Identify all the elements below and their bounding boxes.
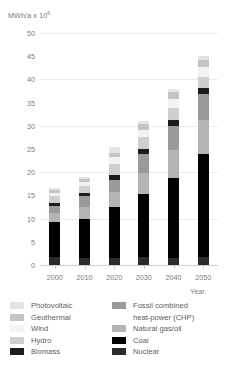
bar-segment-geothermal: [198, 60, 209, 67]
bar-segment-nuclear: [49, 257, 60, 265]
x-axis-tickmark: [85, 265, 86, 269]
bar-segment-fossil-combined-heat-power-chp: [79, 196, 90, 206]
bar-segment-geothermal: [109, 153, 120, 158]
bar-segment-geothermal: [138, 124, 149, 130]
y-axis-tick-label: 20: [27, 168, 35, 177]
bar-segment-fossil-combined-heat-power-chp: [168, 126, 179, 151]
bar-segment-fossil-combined-heat-power-chp: [198, 94, 209, 120]
y-axis-tick-label: 15: [27, 191, 35, 200]
x-axis-tickmark: [114, 265, 115, 269]
y-axis-label-text: MWh/a x 10: [8, 11, 47, 20]
legend-item: Coal: [112, 335, 194, 347]
bar-2030: [138, 121, 149, 265]
x-axis-tick-label: 2050: [195, 273, 211, 282]
bar-segment-geothermal: [168, 92, 179, 98]
bar-segment-wind: [109, 157, 120, 164]
bar-segment-fossil-combined-heat-power-chp: [109, 180, 120, 193]
bar-segment-photovoltaic: [138, 121, 149, 124]
bar-segment-photovoltaic: [49, 188, 60, 190]
bar-2050: [198, 56, 209, 265]
legend-label: Hydro: [31, 335, 51, 347]
y-axis-tick-label: 35: [27, 98, 35, 107]
bar-segment-coal: [109, 207, 120, 258]
bar-2020: [109, 147, 120, 265]
bar-segment-natural-gas-oil: [49, 213, 60, 223]
bar-segment-biomass: [198, 88, 209, 94]
legend-item: Biomass: [10, 346, 72, 358]
x-axis-tickmark: [55, 265, 56, 269]
x-axis-label: Year: [190, 287, 205, 296]
bar-segment-natural-gas-oil: [168, 150, 179, 178]
legend-item: Geothermal: [10, 312, 72, 324]
legend-column-right: Fossil combinedheat-power (CHP)Natural g…: [112, 300, 194, 358]
x-axis-tick-label: 2020: [106, 273, 122, 282]
bar-segment-natural-gas-oil: [79, 207, 90, 219]
legend-swatch: [10, 348, 24, 355]
legend-label: Nuclear: [133, 346, 159, 358]
bar-segment-hydro: [198, 77, 209, 88]
legend-item: Natural gas/oil: [112, 323, 194, 335]
legend-swatch: [112, 348, 126, 355]
x-axis-line: [40, 265, 218, 266]
legend-item: Nuclear: [112, 346, 194, 358]
bar-segment-wind: [79, 182, 90, 186]
bar-segment-wind: [198, 67, 209, 77]
bar-segment-wind: [49, 193, 60, 196]
bar-2000: [49, 188, 60, 265]
legend-swatch: [10, 302, 24, 309]
y-axis-tick-label: 30: [27, 121, 35, 130]
bar-segment-wind: [168, 99, 179, 108]
legend-label: heat-power (CHP): [133, 312, 194, 324]
bar-segment-biomass: [168, 120, 179, 126]
y-axis-label-exponent: 6: [47, 10, 50, 16]
gridline: [40, 79, 218, 80]
legend-item: Wind: [10, 323, 72, 335]
legend-swatch: [10, 314, 24, 321]
bar-segment-geothermal: [79, 179, 90, 182]
gridline: [40, 126, 218, 127]
bar-segment-photovoltaic: [79, 177, 90, 179]
legend: PhotovoltaicGeothermalWindHydroBiomass F…: [0, 300, 228, 368]
legend-swatch: [112, 325, 126, 332]
gridline: [40, 33, 218, 34]
y-axis-tick-label: 50: [27, 29, 35, 38]
gridline: [40, 219, 218, 220]
legend-label: Fossil combined: [133, 300, 188, 312]
x-axis-tick-label: 2030: [136, 273, 152, 282]
legend-item: Photovoltaic: [10, 300, 72, 312]
bar-segment-fossil-combined-heat-power-chp: [138, 154, 149, 173]
legend-swatch: [10, 325, 24, 332]
y-axis-tick-label: 5: [31, 237, 35, 246]
gridline: [40, 172, 218, 173]
legend-label: Biomass: [31, 346, 60, 358]
bar-segment-hydro: [138, 137, 149, 149]
bar-segment-nuclear: [79, 258, 90, 265]
legend-item: heat-power (CHP): [112, 312, 194, 324]
bar-segment-coal: [79, 219, 90, 258]
energy-scenario-stacked-bar-chart: MWh/a x 106 05101520253035404550 2000201…: [0, 0, 228, 368]
bar-segment-fossil-combined-heat-power-chp: [49, 206, 60, 212]
bar-segment-hydro: [168, 108, 179, 120]
bar-segment-coal: [49, 222, 60, 256]
y-axis-tick-label: 25: [27, 145, 35, 154]
legend-swatch: [112, 337, 126, 344]
x-axis-tickmark: [144, 265, 145, 269]
y-axis-label: MWh/a x 106: [8, 10, 50, 20]
legend-column-left: PhotovoltaicGeothermalWindHydroBiomass: [10, 300, 72, 358]
y-axis-tick-label: 10: [27, 214, 35, 223]
bar-segment-coal: [138, 194, 149, 257]
bar-segment-nuclear: [168, 258, 179, 265]
bar-segment-photovoltaic: [168, 89, 179, 93]
bar-segment-hydro: [49, 196, 60, 203]
legend-item: Hydro: [10, 335, 72, 347]
x-axis-tickmark: [203, 265, 204, 269]
bar-segment-nuclear: [198, 257, 209, 265]
bar-segment-natural-gas-oil: [138, 173, 149, 194]
legend-swatch: [112, 302, 126, 309]
bar-segment-photovoltaic: [198, 56, 209, 60]
bar-segment-coal: [198, 154, 209, 257]
bar-segment-biomass: [49, 203, 60, 206]
legend-label: Natural gas/oil: [133, 323, 182, 335]
x-axis-tick-label: 2010: [77, 273, 93, 282]
bar-segment-photovoltaic: [109, 147, 120, 153]
